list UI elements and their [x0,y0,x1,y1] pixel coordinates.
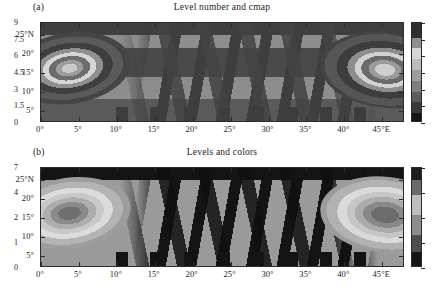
x-axis-tick-label: 20° [186,124,198,134]
y-tick-left [41,199,45,200]
x-axis-tick-label: 40° [337,269,349,279]
x-tick-bottom [117,117,118,121]
y-tick-left [41,92,45,93]
colorbar-tick-mark [421,106,425,107]
colorbar-tick-mark [421,90,425,91]
x-axis-tick-label: 10° [110,269,122,279]
colorbar-tick-mark [421,218,425,219]
panel-a-colorbar [411,22,422,122]
x-tick-bottom [117,262,118,266]
y-tick-left [41,256,45,257]
x-tick-top [155,168,156,172]
y-tick-left [41,73,45,74]
colorbar-tick-label: 3 [14,84,18,93]
x-axis-tick-label: 35° [299,124,311,134]
colorbar-tick-label: 1 [14,238,18,247]
y-tick-right [399,111,403,112]
colorbar-tick-label: 1.5 [14,101,24,110]
x-tick-top [269,23,270,27]
colorbar-tick-label: 2 [14,213,18,222]
x-tick-top [155,23,156,27]
x-axis-tick-label: 45°E [373,124,391,134]
panel-b: (b) Levels and colors 0°5°10°15°20°25°30… [0,145,443,289]
y-tick-left [41,237,45,238]
panel-a-bottom-streaks [106,107,381,121]
colorbar-tick-mark [421,193,425,194]
colorbar-tick-mark [421,123,425,124]
x-tick-top [117,23,118,27]
x-tick-top [344,23,345,27]
colorbar-tick-label: 9 [14,18,18,27]
x-tick-top [306,168,307,172]
x-tick-top [79,168,80,172]
x-tick-bottom [155,117,156,121]
x-tick-bottom [269,262,270,266]
panel-a-contour-field [41,23,403,121]
x-tick-bottom [269,117,270,121]
x-tick-top [79,23,80,27]
x-axis-tick-label: 15° [148,269,160,279]
y-tick-right [399,92,403,93]
x-tick-bottom [79,117,80,121]
x-tick-top [344,168,345,172]
colorbar-tick-mark [421,40,425,41]
colorbar-tick-label: 4.5 [14,68,24,77]
figure-canvas: (a) Level number and cmap 0°5°10°15°20°2… [0,0,443,289]
y-tick-left [41,35,45,36]
x-axis-tick-label: 20° [186,269,198,279]
x-tick-bottom [344,117,345,121]
panel-b-contour-field [41,168,403,266]
panel-a-title: Level number and cmap [40,2,404,12]
x-axis-tick-label: 5° [74,269,82,279]
y-tick-left [41,54,45,55]
x-tick-top [382,168,383,172]
x-tick-bottom [231,117,232,121]
x-tick-bottom [306,117,307,121]
panel-a-plot-area [40,22,404,122]
x-axis-tick-label: 40° [337,124,349,134]
y-tick-right [399,218,403,219]
x-axis-tick-label: 25° [223,269,235,279]
x-tick-top [231,23,232,27]
x-tick-bottom [344,262,345,266]
colorbar-tick-mark [421,73,425,74]
y-tick-right [399,199,403,200]
x-tick-bottom [193,262,194,266]
y-tick-right [399,35,403,36]
x-tick-top [193,168,194,172]
colorbar-tick-mark [421,168,425,169]
x-tick-top [193,23,194,27]
x-tick-bottom [306,262,307,266]
colorbar-tick-label: 4 [14,188,18,197]
x-tick-top [41,23,42,27]
x-axis-tick-label: 15° [148,124,160,134]
x-tick-top [382,23,383,27]
colorbar-tick-label: 0 [14,118,18,127]
y-tick-left [41,111,45,112]
x-tick-top [117,168,118,172]
colorbar-tick-label: 6 [14,51,18,60]
x-tick-bottom [231,262,232,266]
x-axis-tick-label: 35° [299,269,311,279]
y-tick-left [41,180,45,181]
x-tick-top [41,168,42,172]
x-tick-bottom [382,117,383,121]
x-axis-tick-label: 30° [261,269,273,279]
x-axis-tick-label: 25° [223,124,235,134]
x-axis-tick-label: 0° [36,124,44,134]
x-axis-tick-label: 45°E [373,269,391,279]
x-tick-top [269,168,270,172]
panel-b-colorbar [411,167,422,267]
y-tick-right [399,237,403,238]
y-axis-tick-label: 25°N [0,174,34,184]
x-axis-tick-label: 10° [110,124,122,134]
panel-b-plot-area [40,167,404,267]
colorbar-tick-label: 7.5 [14,34,24,43]
x-axis-tick-label: 5° [74,124,82,134]
x-axis-tick-label: 30° [261,124,273,134]
y-axis-tick-label: 5° [0,250,34,260]
y-tick-right [399,54,403,55]
panel-b-bottom-streaks [106,252,381,266]
x-tick-top [306,23,307,27]
x-tick-bottom [382,262,383,266]
